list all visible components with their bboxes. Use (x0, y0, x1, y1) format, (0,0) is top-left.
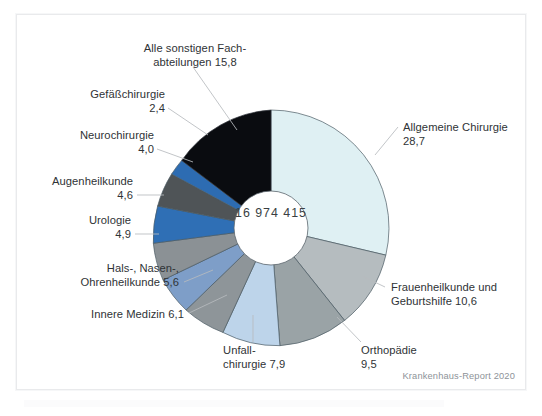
label-frauenheilkunde: Frauenheilkunde und Geburtshilfe 10,6 (391, 280, 531, 309)
page-bottom-strip (24, 400, 444, 407)
label-urologie: Urologie 4,9 (23, 213, 131, 242)
label-gefaesschirurgie: Gefäßchirurgie 2,4 (37, 87, 165, 116)
donut-hole (234, 191, 308, 265)
figure-page: Alle sonstigen Fach- abteilungen 15,8 Ge… (0, 0, 542, 416)
label-allgemeine-chirurgie: Allgemeine Chirurgie 28,7 (403, 120, 533, 149)
label-neurochirurgie: Neurochirurgie 4,0 (29, 128, 154, 157)
leader-line-allgemeine-chirurgie (375, 127, 398, 155)
label-hno: Hals-, Nasen-, Ohrenheilkunde 5,6 (19, 261, 179, 290)
leader-line-orthopaedie (337, 317, 361, 342)
label-unfallchirurgie: Unfall- chirurgie 7,9 (223, 343, 333, 372)
label-orthopaedie: Orthopädie 9,5 (361, 343, 471, 372)
pie-chart: Alle sonstigen Fach- abteilungen 15,8 Ge… (17, 15, 525, 389)
label-augenheilkunde: Augenheilkunde 4,6 (11, 174, 133, 203)
label-sonstige: Alle sonstigen Fach- abteilungen 15,8 (125, 41, 265, 70)
leader-line-sonstige (193, 67, 237, 130)
leader-line-gefaesschirurgie (168, 108, 208, 135)
source-credit: Krankenhaus-Report 2020 (402, 371, 515, 381)
center-total-value: 16 974 415 (217, 206, 325, 220)
figure-frame: Alle sonstigen Fach- abteilungen 15,8 Ge… (16, 14, 526, 390)
label-innere-medizin: Innere Medizin 6,1 (59, 307, 184, 321)
